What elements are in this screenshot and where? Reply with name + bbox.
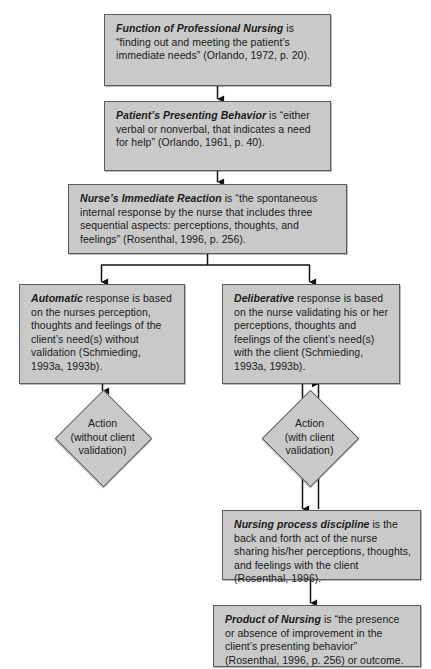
- node-text: Nursing process discipline is the back a…: [223, 511, 420, 594]
- node-patients-presenting-behavior: Patient’s Presenting Behavior is “either…: [104, 101, 331, 171]
- decision-label: Action (without client validation): [70, 417, 134, 457]
- node-nursing-process-discipline: Nursing process discipline is the back a…: [222, 510, 421, 580]
- flowchart-canvas: Function of Professional Nursing is “fin…: [0, 0, 431, 669]
- node-term: Patient’s Presenting Behavior: [116, 109, 266, 121]
- decision-label: Action (with client validation): [285, 417, 335, 457]
- node-text: Product of Nursing is “the presence or a…: [214, 606, 420, 669]
- decision-action-with-client-validation: Action (with client validation): [262, 390, 357, 485]
- node-term: Nurse’s Immediate Reaction: [80, 192, 222, 204]
- node-term: Product of Nursing: [225, 613, 321, 625]
- node-automatic-response: Automatic response is based on the nurse…: [19, 284, 185, 384]
- node-nurses-immediate-reaction: Nurse’s Immediate Reaction is “the spont…: [68, 184, 347, 254]
- node-function-of-professional-nursing: Function of Professional Nursing is “fin…: [104, 14, 331, 86]
- decision-action-without-client-validation: Action (without client validation): [55, 390, 150, 485]
- node-text: Automatic response is based on the nurse…: [20, 285, 184, 382]
- node-text: Patient’s Presenting Behavior is “either…: [105, 102, 330, 158]
- node-deliberative-response: Deliberative response is based on the nu…: [222, 284, 400, 384]
- node-text: Nurse’s Immediate Reaction is “the spont…: [69, 185, 346, 254]
- node-text: Deliberative response is based on the nu…: [223, 285, 399, 382]
- node-product-of-nursing: Product of Nursing is “the presence or a…: [213, 605, 421, 667]
- node-term: Deliberative: [234, 292, 294, 304]
- node-term: Nursing process discipline: [234, 518, 370, 530]
- node-term: Function of Professional Nursing: [116, 22, 283, 34]
- node-text: Function of Professional Nursing is “fin…: [105, 15, 330, 71]
- node-term: Automatic: [31, 292, 83, 304]
